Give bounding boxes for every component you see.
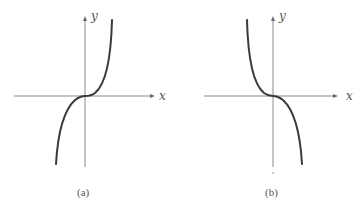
panel-caption: (a) <box>77 186 90 199</box>
panel-a: x y (a) <box>14 9 166 199</box>
y-axis-arrow-icon <box>83 16 87 21</box>
x-axis-arrow-icon <box>150 94 155 98</box>
x-axis-label: x <box>346 89 353 103</box>
y-axis-label: y <box>90 9 98 23</box>
panel-b: x y (b) <box>204 9 353 199</box>
panel-caption: (b) <box>265 186 278 199</box>
cubic-curve-decreasing <box>247 20 302 164</box>
x-axis-arrow-icon <box>333 94 338 98</box>
figure: x y (a) x y (b) <box>0 0 363 207</box>
cubic-curve-increasing <box>56 20 112 164</box>
x-axis-label: x <box>159 89 166 103</box>
y-axis-arrow-icon <box>271 16 275 21</box>
axis-end-dot <box>272 172 274 174</box>
y-axis-label: y <box>278 9 286 23</box>
